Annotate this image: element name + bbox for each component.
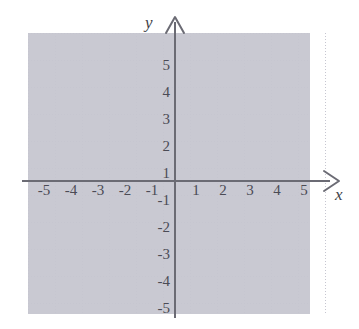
grid-line-vertical bbox=[28, 33, 29, 314]
grid-line-vertical bbox=[298, 33, 299, 314]
grid-line-vertical bbox=[244, 33, 245, 314]
y-tick-label-neg4: -4 bbox=[146, 274, 170, 289]
x-tick-label-neg4: -4 bbox=[60, 183, 82, 198]
y-tick-label-neg3: -3 bbox=[146, 247, 170, 262]
x-axis-label: x bbox=[335, 186, 343, 203]
x-tick-label-3: 3 bbox=[239, 183, 261, 198]
x-tick-label-neg2: -2 bbox=[114, 183, 136, 198]
grid-line-vertical bbox=[55, 33, 56, 314]
y-tick-label-2: 2 bbox=[146, 139, 170, 154]
y-tick-label-3: 3 bbox=[146, 112, 170, 127]
y-tick-label-5: 5 bbox=[146, 58, 170, 73]
y-tick-label-neg1: -1 bbox=[146, 193, 170, 208]
y-tick-label-neg2: -2 bbox=[146, 220, 170, 235]
y-axis-label: y bbox=[145, 14, 153, 31]
grid-line-vertical bbox=[190, 33, 191, 314]
y-tick-label-4: 4 bbox=[146, 85, 170, 100]
x-tick-label-5: 5 bbox=[293, 183, 315, 198]
y-tick-label-neg5: -5 bbox=[146, 301, 170, 316]
grid-line-vertical bbox=[82, 33, 83, 314]
grid-line-vertical bbox=[109, 33, 110, 314]
grid-line-vertical bbox=[136, 33, 137, 314]
y-axis-arrowhead bbox=[163, 13, 187, 35]
coordinate-plane-figure: x y -5 -4 -3 -2 -1 1 2 3 4 5 5 4 3 2 1 -… bbox=[0, 0, 359, 329]
y-tick-label-1: 1 bbox=[146, 166, 170, 181]
x-tick-label-neg5: -5 bbox=[33, 183, 55, 198]
x-tick-label-2: 2 bbox=[212, 183, 234, 198]
y-axis-line bbox=[174, 22, 176, 318]
x-tick-label-4: 4 bbox=[266, 183, 288, 198]
x-tick-label-1: 1 bbox=[185, 183, 207, 198]
x-tick-label-neg3: -3 bbox=[87, 183, 109, 198]
grid-line-vertical bbox=[271, 33, 272, 314]
grid-line-vertical bbox=[217, 33, 218, 314]
